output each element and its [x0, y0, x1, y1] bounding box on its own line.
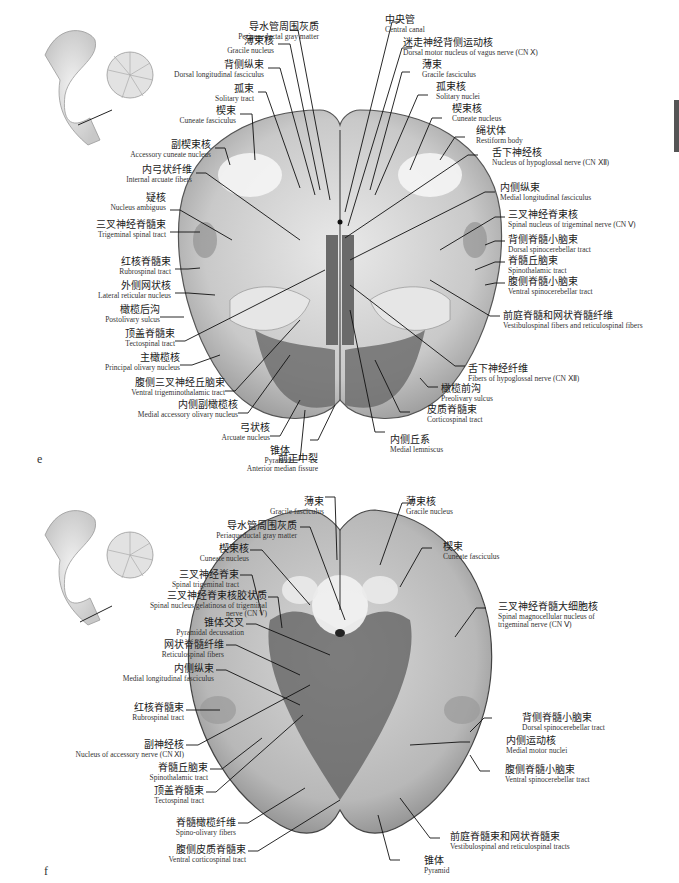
label-ventral-spinocerebellar-f: 腹侧脊髓小脑束Ventral spinocerebellar tract	[505, 765, 590, 784]
panel-letter-e: e	[37, 452, 42, 467]
panel-e-medulla-section: 导水管周围灰质Periaqueductal gray matter 薄束核Gra…	[0, 0, 679, 470]
label-spino-olivary-fibers: 脊髓橄榄纤维Spino-olivary fibers	[176, 818, 236, 837]
panel-f-spinomedullary-section: 薄束Gracile fasciculus 导水管周围灰质Periaqueduct…	[0, 470, 679, 883]
label-medial-longitudinal-fasciculus-f: 内侧纵束Medial longitudinal fasciculus	[123, 664, 214, 683]
label-vestibulospinal-reticulospinal-tracts: 前庭脊髓束和网状脊髓束Vestibulospinal and reticulos…	[450, 832, 570, 851]
label-ventral-corticospinal-tract: 腹侧皮质脊髓束Ventral corticospinal tract	[169, 845, 246, 864]
label-tectospinal-f: 顶盖脊髓束Tectospinal tract	[154, 786, 204, 805]
label-cuneate-fasciculus-f: 楔束Cuneate fasciculus	[443, 542, 499, 561]
label-medial-longitudinal-fasciculus-e: 内侧纵束Medial longitudinal fasciculus	[500, 183, 591, 202]
label-dorsal-motor-nucleus-vagus: 迷走神经背侧运动核Dorsal motor nucleus of vagus n…	[403, 38, 538, 57]
label-dorsal-spinocerebellar-e: 背侧脊髓小脑束Dorsal spinocerebellar tract	[508, 235, 591, 254]
label-gracile-fasciculus-f: 薄束Gracile fasciculus	[270, 497, 324, 516]
label-spinal-nucleus-trigeminal: 三叉神经脊束核Spinal nucleus of trigeminal nerv…	[508, 210, 635, 229]
label-spinal-trigeminal-tract: 三叉神经脊束Spinal trigeminal tract	[172, 570, 239, 589]
label-principal-olivary-nucleus: 主橄榄核Principal olivary nucleus	[105, 353, 180, 372]
label-rubrospinal-tract-f: 红核脊髓束Rubrospinal tract	[132, 703, 184, 722]
label-accessory-nerve-nucleus: 副神经核Nucleus of accessory nerve (CN Ⅺ)	[76, 740, 184, 759]
label-ventral-spinocerebellar-e: 腹侧脊髓小脑束Ventral spinocerebellar tract	[508, 277, 593, 296]
brainstem-orientation-sketch-f	[45, 511, 153, 625]
label-trigeminal-spinal-tract: 三叉神经脊髓束Trigeminal spinal tract	[96, 220, 166, 239]
label-cuneate-fasciculus: 楔束Cuneate fasciculus	[180, 106, 236, 125]
label-postolivary-sulcus: 橄榄后沟Postolivary sulcus	[105, 305, 160, 324]
label-medial-lemniscus: 内侧丘系Medial lemniscus	[390, 435, 443, 454]
label-solitary-nuclei: 孤束核Solitary nuclei	[436, 82, 480, 101]
label-accessory-cuneate-nucleus: 副楔束核Accessory cuneate nucleus	[130, 140, 211, 159]
label-reticulospinal-fibers: 网状脊髓纤维Reticulospinal fibers	[162, 640, 224, 659]
label-cuneate-nucleus-e: 楔束核Cuneate nucleus	[452, 104, 501, 123]
label-spinal-nucleus-gelatinosa: 三叉神经脊束核胶状质Spinal nucleus gelatinosa of t…	[147, 591, 267, 617]
label-dorsal-longitudinal-fasciculus: 背侧纵束Dorsal longitudinal fasciculus	[174, 60, 264, 79]
label-hypoglossal-fibers: 舌下神经纤维Fibers of hypoglossal nerve (CN Ⅻ)	[468, 364, 579, 383]
label-periaqueductal-gray-f: 导水管周围灰质Periaqueductal gray matter	[216, 521, 297, 540]
label-gracile-nucleus-f: 薄束核Gracile nucleus	[406, 497, 453, 516]
brainstem-orientation-sketch	[45, 31, 153, 145]
label-pyramidal-decussation: 锥体交叉Pyramidal decussation	[176, 618, 244, 637]
medulla-section-body	[178, 110, 501, 419]
label-central-canal: 中央管Central canal	[385, 15, 425, 34]
label-pyramid-f: 锥体Pyramid	[424, 856, 449, 875]
label-rubrospinal-tract: 红核脊髓束Rubrospinal tract	[119, 257, 171, 276]
label-gracile-nucleus: 薄束核Gracile nucleus	[227, 36, 274, 55]
label-solitary-tract: 孤束Solitary tract	[215, 84, 254, 103]
label-ventral-trigeminothalamic-tract: 腹侧三叉神经丘脑束Ventral trigeminothalamic tract	[131, 378, 225, 397]
label-tectospinal-tract: 顶盖脊髓束Tectospinal tract	[125, 329, 175, 348]
label-corticospinal-tract: 皮质脊髓束Corticospinal tract	[427, 405, 483, 424]
label-cuneate-nucleus-f: 楔束核Cuneate nucleus	[200, 544, 249, 563]
panel-letter-f: f	[44, 864, 48, 879]
label-lateral-reticular-nucleus: 外侧网状核Lateral reticular nucleus	[98, 281, 171, 300]
label-spinal-magnocellular-nucleus: 三叉神经脊髓大细胞核Spinal magnocellular nucleus o…	[498, 602, 623, 628]
label-vestibulospinal-reticulospinal-fibers: 前庭脊髓和网状脊髓纤维Vestibulospinal fibers and re…	[503, 311, 643, 330]
label-medial-motor-nuclei: 内侧运动核Medial motor nuclei	[506, 736, 567, 755]
label-hypoglossal-nucleus: 舌下神经核Nucleus of hypoglossal nerve (CN Ⅻ)	[492, 148, 609, 167]
label-medial-accessory-olivary-nucleus: 内侧副橄榄核Medial accessory olivary nucleus	[138, 400, 238, 419]
label-nucleus-ambiguus: 疑核Nucleus ambiguus	[110, 193, 166, 212]
label-spinothalamic-e: 脊髓丘脑束Spinothalamic tract	[508, 256, 567, 275]
caudal-medulla-cross-section-illustration	[0, 470, 679, 883]
label-gracile-fasciculus: 薄束Gracile fasciculus	[422, 60, 476, 79]
label-internal-arcuate-fibers: 内弓状纤维Internal arcuate fibers	[126, 165, 192, 184]
label-restiform-body: 绳状体Restiform body	[476, 126, 523, 145]
label-preolivary-sulcus: 橄榄前沟Preolivary sulcus	[441, 384, 493, 403]
label-dorsal-spinocerebellar-f: 背侧脊髓小脑束Dorsal spinocerebellar tract	[522, 713, 605, 732]
label-spinothalamic-f: 脊髓丘脑束Spinothalamic tract	[149, 763, 208, 782]
label-arcuate-nucleus: 弓状核Arcuate nucleus	[221, 423, 270, 442]
